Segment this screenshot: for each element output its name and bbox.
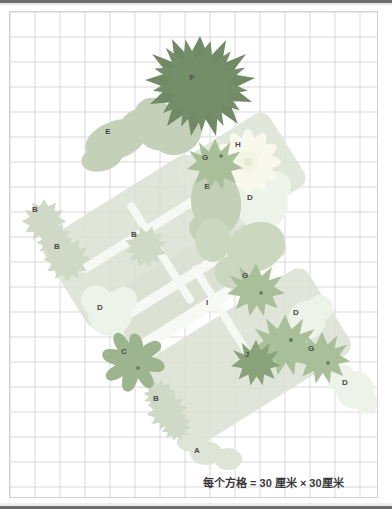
scale-legend-caption: 每个方格 = 30 厘米 × 30厘米 <box>203 476 345 489</box>
label-G1: G <box>202 153 208 162</box>
garden-plot-canvas: F E H G E D B B B G D I D C J G D B A <box>9 11 378 498</box>
label-J: J <box>245 350 249 359</box>
label-G2: G <box>242 271 248 280</box>
label-I: I <box>206 298 208 307</box>
label-H: H <box>235 140 241 149</box>
label-B1: B <box>32 205 38 214</box>
page-top-rule-shadow <box>0 3 392 5</box>
label-F: F <box>190 73 195 82</box>
page-bottom-rule <box>0 506 392 509</box>
figure-page: F E H G E D B B B G D I D C J G D B A <box>0 0 392 514</box>
label-E2: E <box>204 182 210 191</box>
label-D4: D <box>342 378 348 387</box>
garden-plan-svg: F E H G E D B B B G D I D C J G D B A <box>10 12 377 497</box>
label-D3: D <box>293 308 299 317</box>
label-D2: D <box>97 303 103 312</box>
label-B3: B <box>131 230 137 239</box>
label-G3: G <box>308 344 314 353</box>
label-B4: B <box>153 394 159 403</box>
label-D1: D <box>247 193 253 202</box>
label-B2: B <box>54 242 60 251</box>
label-A: A <box>194 446 200 455</box>
label-C: C <box>121 347 127 356</box>
label-E1: E <box>105 127 111 136</box>
